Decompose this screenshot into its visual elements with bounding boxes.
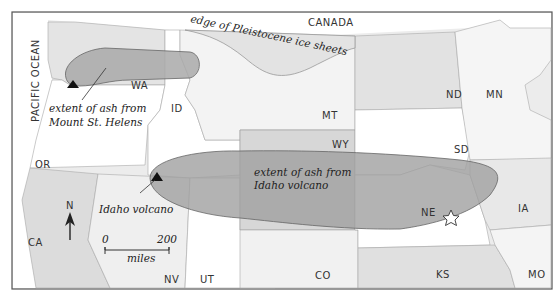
label-idaho-ash-1: extent of ash from (254, 166, 351, 178)
label-or: OR (35, 159, 51, 170)
scale-unit: miles (127, 252, 156, 264)
label-ks: KS (436, 269, 450, 280)
ash-extent-map: N 0 200 miles CANADA PACIFIC OCEAN edge … (0, 0, 558, 302)
label-id: ID (171, 103, 183, 114)
scale-min: 0 (102, 233, 109, 245)
label-mt: MT (322, 110, 338, 121)
label-mt-st-helens-ash-1: extent of ash from (49, 102, 146, 114)
label-idaho-ash-2: Idaho volcano (253, 179, 328, 191)
label-co: CO (315, 270, 331, 281)
label-wy: WY (332, 139, 349, 150)
label-ia: IA (518, 203, 529, 214)
label-nd: ND (446, 89, 462, 100)
label-mo: MO (528, 269, 546, 280)
north-label: N (66, 200, 74, 211)
state-co (240, 230, 358, 288)
label-ne: NE (421, 207, 436, 218)
state-ks (358, 245, 515, 288)
label-mt-st-helens-ash-2: Mount St. Helens (48, 116, 143, 128)
label-pacific-ocean: PACIFIC OCEAN (30, 39, 41, 122)
label-mn: MN (486, 89, 503, 100)
label-nv: NV (164, 274, 179, 285)
label-ca: CA (28, 237, 43, 248)
label-sd: SD (454, 144, 469, 155)
scale-max: 200 (156, 233, 177, 245)
label-idaho-volcano: Idaho volcano (98, 203, 173, 215)
label-wa: WA (131, 80, 148, 91)
label-ut: UT (200, 274, 215, 285)
label-canada: CANADA (308, 17, 354, 28)
